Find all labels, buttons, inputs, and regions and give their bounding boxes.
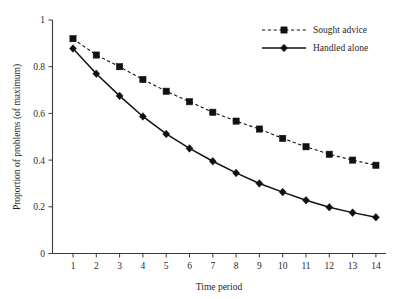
data-point-diamond [279,188,286,196]
y-tick-label: 0 [40,249,45,259]
series-sought-advice [70,36,379,169]
legend-item-sought-advice: Sought advice [262,25,367,35]
data-point-square [373,162,379,168]
data-point-square [163,88,169,94]
x-tick-label: 7 [210,261,215,271]
data-point-square [210,109,216,115]
chart-plot-area: 00.20.40.60.81 1234567891011121314 Sough… [0,0,408,299]
legend-label: Sought advice [313,25,367,35]
x-tick-label: 13 [348,261,358,271]
x-tick-label: 11 [301,261,310,271]
data-point-square [117,64,123,70]
data-point-square [140,76,146,82]
x-axis-ticks: 1234567891011121314 [71,254,381,272]
data-point-square [93,52,99,58]
data-point-diamond [281,44,288,52]
y-axis: 00.20.40.60.81 [33,15,52,259]
data-point-diamond [372,214,379,222]
data-point-diamond [186,145,193,153]
y-axis-ticks: 00.20.40.60.81 [33,15,52,259]
data-point-square [326,151,332,157]
x-tick-label: 2 [94,261,99,271]
x-tick-label: 9 [257,261,262,271]
data-point-diamond [303,196,310,204]
data-point-diamond [349,209,356,217]
series-layer [70,36,380,222]
y-axis-title: Proportion of problems (of maximum) [12,64,23,210]
data-point-square [350,157,356,163]
data-point-square [186,99,192,105]
legend-item-handled-alone: Handled alone [262,43,368,53]
data-point-diamond [233,169,240,177]
legend-label: Handled alone [313,43,368,53]
series-line [73,48,376,217]
data-point-square [256,126,262,132]
data-point-square [303,144,309,150]
data-point-square [281,27,287,33]
y-tick-label: 0.6 [33,109,45,119]
series-handled-alone [70,45,380,221]
data-point-square [70,36,76,42]
x-tick-label: 10 [278,261,288,271]
chart-figure: 00.20.40.60.81 1234567891011121314 Sough… [0,0,408,299]
y-tick-label: 1 [40,15,45,25]
x-tick-label: 3 [117,261,122,271]
data-point-square [233,118,239,124]
y-tick-label: 0.4 [33,156,45,166]
series-line [73,39,376,166]
x-tick-label: 4 [141,261,146,271]
x-tick-label: 1 [71,261,76,271]
x-tick-label: 14 [371,261,381,271]
data-point-diamond [326,203,333,211]
x-axis: 1234567891011121314 [53,254,387,272]
x-tick-label: 8 [234,261,239,271]
x-tick-label: 6 [187,261,192,271]
x-axis-title: Time period [196,282,243,292]
y-tick-label: 0.8 [33,62,45,72]
data-point-diamond [209,157,216,165]
data-point-square [280,135,286,141]
x-tick-label: 12 [325,261,335,271]
chart-legend: Sought adviceHandled alone [262,25,368,53]
x-tick-label: 5 [164,261,169,271]
y-tick-label: 0.2 [33,202,45,212]
data-point-diamond [256,180,263,188]
